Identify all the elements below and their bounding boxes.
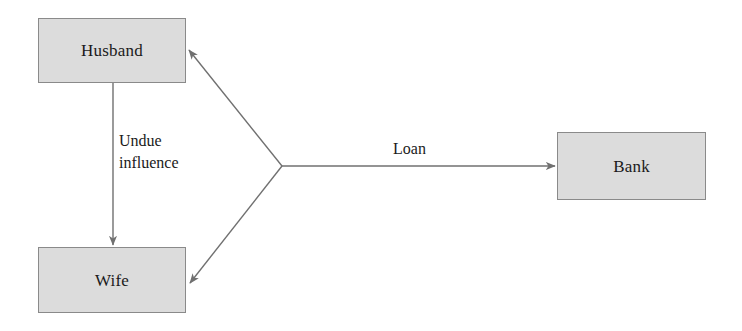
node-husband-label: Husband (81, 42, 143, 59)
node-husband[interactable]: Husband (38, 18, 186, 83)
edge-label-loan: Loan (393, 138, 426, 160)
edge-junction-to-wife (190, 166, 282, 283)
edge-label-undue-influence-line1: Undue (119, 130, 179, 152)
node-bank[interactable]: Bank (557, 132, 706, 200)
diagram-canvas: Husband Wife Bank Undue influence Loan (0, 0, 742, 331)
edge-junction-to-husband (189, 50, 282, 166)
node-wife[interactable]: Wife (38, 247, 186, 313)
node-wife-label: Wife (95, 272, 129, 289)
edge-label-undue-influence-line2: influence (119, 152, 179, 174)
node-bank-label: Bank (613, 158, 650, 175)
edge-label-undue-influence: Undue influence (119, 130, 179, 173)
